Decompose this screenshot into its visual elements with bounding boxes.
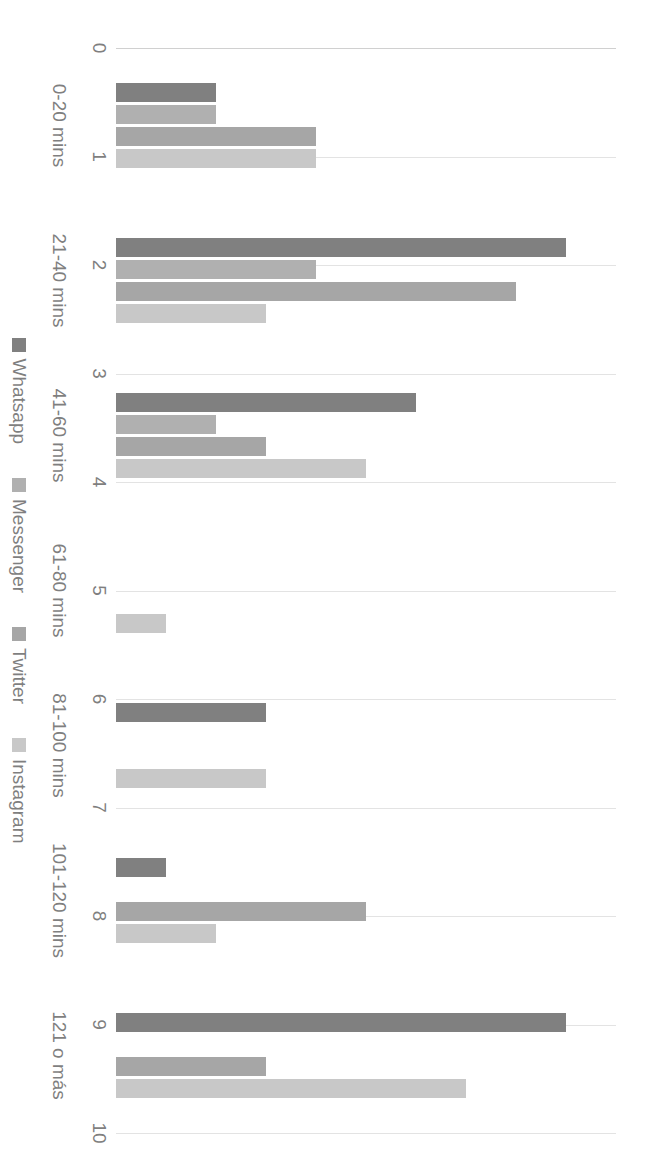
bar-group (116, 978, 616, 1133)
legend-item[interactable]: Whatsapp (8, 338, 30, 445)
category-axis-tick: 61-80 mins (34, 513, 70, 668)
value-axis-tick: 3 (88, 368, 110, 379)
bar[interactable] (116, 149, 316, 168)
legend-label: Whatsapp (8, 359, 30, 445)
category-axis-tick: 101-120 mins (34, 823, 70, 978)
bar[interactable] (116, 437, 266, 456)
category-axis-tick: 0-20 mins (34, 48, 70, 203)
value-axis-tick: 10 (88, 1122, 110, 1143)
bar-group (116, 668, 616, 823)
value-axis-tick: 0 (88, 43, 110, 54)
category-axis-tick: 81-100 mins (34, 668, 70, 823)
legend-label: Messenger (8, 499, 30, 593)
value-axis-tick: 8 (88, 911, 110, 922)
category-axis-tick: 21-40 mins (34, 203, 70, 358)
bar[interactable] (116, 238, 566, 257)
bar[interactable] (116, 459, 366, 478)
bar[interactable] (116, 1057, 266, 1076)
bar-chart: 012345678910 0-20 mins21-40 mins41-60 mi… (0, 0, 656, 1165)
value-axis-tick: 1 (88, 151, 110, 162)
value-axis-tick: 6 (88, 694, 110, 705)
chart-legend: WhatsappMessengerTwitterInstagram (2, 48, 36, 1133)
bar[interactable] (116, 1079, 466, 1098)
bar[interactable] (116, 614, 166, 633)
bar[interactable] (116, 858, 166, 877)
legend-item[interactable]: Messenger (8, 478, 30, 593)
bar-groups (116, 48, 616, 1133)
category-axis: 0-20 mins21-40 mins41-60 mins61-80 mins8… (34, 48, 70, 1133)
bar[interactable] (116, 769, 266, 788)
legend-label: Twitter (8, 648, 30, 704)
bar-group (116, 513, 616, 668)
value-axis-tick: 2 (88, 260, 110, 271)
bar[interactable] (116, 83, 216, 102)
bar[interactable] (116, 304, 266, 323)
legend-swatch-icon (12, 478, 26, 492)
category-axis-tick: 41-60 mins (34, 358, 70, 513)
bar[interactable] (116, 703, 266, 722)
bar-group (116, 48, 616, 203)
bar[interactable] (116, 260, 316, 279)
rotated-chart-wrapper: 012345678910 0-20 mins21-40 mins41-60 mi… (0, 0, 656, 1165)
value-axis-tick: 7 (88, 802, 110, 813)
legend-swatch-icon (12, 738, 26, 752)
legend-swatch-icon (12, 627, 26, 641)
plot-area (116, 48, 616, 1133)
bar[interactable] (116, 902, 366, 921)
gridline (116, 1133, 616, 1134)
bar[interactable] (116, 282, 516, 301)
legend-item[interactable]: Instagram (8, 738, 30, 843)
legend-swatch-icon (12, 338, 26, 352)
category-axis-tick: 121 o más (34, 978, 70, 1133)
bar-group (116, 203, 616, 358)
bar[interactable] (116, 105, 216, 124)
bar[interactable] (116, 393, 416, 412)
bar[interactable] (116, 127, 316, 146)
bar[interactable] (116, 924, 216, 943)
bar-group (116, 823, 616, 978)
value-axis-tick: 9 (88, 1019, 110, 1030)
bar-group (116, 358, 616, 513)
legend-label: Instagram (8, 759, 30, 843)
bar[interactable] (116, 415, 216, 434)
legend-item[interactable]: Twitter (8, 627, 30, 704)
bar[interactable] (116, 1013, 566, 1032)
value-axis-tick: 4 (88, 477, 110, 488)
value-axis-tick: 5 (88, 585, 110, 596)
